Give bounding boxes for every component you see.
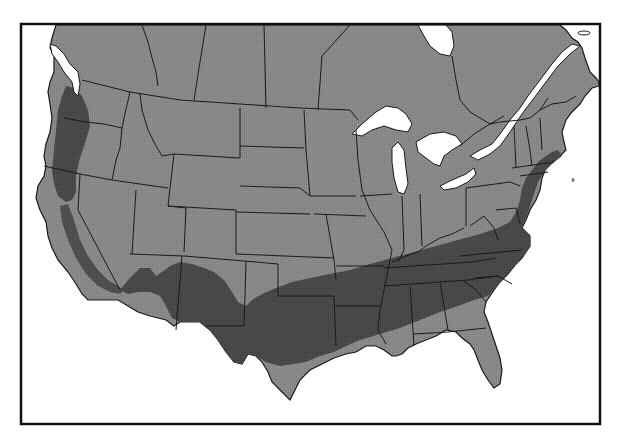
range-map: [0, 0, 621, 444]
anticosti-island: [578, 31, 590, 35]
ocean-speck: [572, 178, 575, 182]
map-svg: [0, 0, 621, 444]
